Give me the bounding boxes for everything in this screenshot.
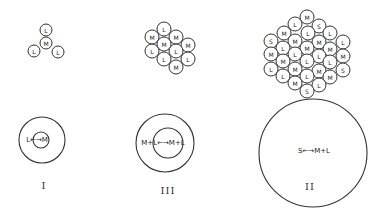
equilibrium-label: L←→M xyxy=(26,136,48,144)
sphere-size-label: S xyxy=(305,88,309,95)
sphere-size-label: M xyxy=(292,38,297,45)
equilibrium-label: S←→M+L xyxy=(298,147,330,155)
sphere-size-label: M xyxy=(316,68,321,75)
equilibrium-label: M+L←→M+L xyxy=(141,139,184,147)
sphere-size-label: M xyxy=(173,64,178,71)
sphere-size-label: S xyxy=(269,38,273,45)
sphere-size-label: M xyxy=(292,66,297,73)
sphere-size-label: M xyxy=(304,14,309,21)
sphere-size-label: S xyxy=(341,67,345,74)
panel-label: III xyxy=(161,185,176,196)
sphere-size-label: M xyxy=(327,74,332,81)
sphere-size-label: M xyxy=(43,40,48,47)
sphere-size-label: M xyxy=(340,53,345,60)
sphere-size-label: M xyxy=(161,41,166,48)
panel-label: II xyxy=(305,181,315,192)
sphere-size-label: M xyxy=(327,46,332,53)
sphere-size-label: M xyxy=(280,58,285,65)
sphere-size-label: M xyxy=(149,34,154,41)
diagram-figure: LMLLL←→MILMMMMLLLLMM+L←→M+LIIIMLSMLLSMML… xyxy=(0,0,373,210)
sphere-size-label: M xyxy=(281,30,286,37)
sphere-size-label: M xyxy=(316,39,321,46)
sphere-size-label: M xyxy=(173,34,178,41)
sphere-size-label: M xyxy=(292,80,297,87)
sphere-size-label: M xyxy=(185,42,190,49)
sphere-size-label: M xyxy=(268,51,273,58)
sphere-size-label: M xyxy=(304,45,309,52)
panel-label: I xyxy=(42,180,47,191)
diagram-canvas: LMLLL←→MILMMMMLLLLMM+L←→M+LIIIMLSMLLSMML… xyxy=(0,0,373,210)
sphere-size-label: S xyxy=(317,23,321,30)
